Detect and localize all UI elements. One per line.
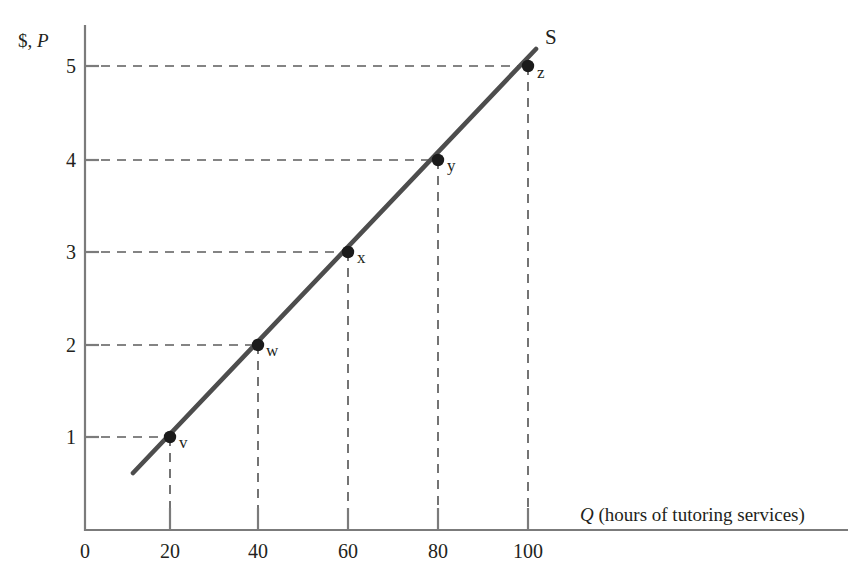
chart-canvas: $, P 5 4 3 2 1 0 20 40 60 80 100 v w x y… (0, 0, 850, 581)
y-tick-label-5: 5 (50, 56, 76, 76)
y-tick-label-4: 4 (50, 150, 76, 170)
x-tick-label-40: 40 (233, 541, 283, 561)
x-tick-label-0: 0 (60, 541, 110, 561)
data-point-y (432, 154, 444, 166)
data-point-v (164, 431, 176, 443)
vertical-guide-lines (170, 66, 528, 527)
y-axis-title-italic: P (37, 30, 49, 51)
x-tick-label-80: 80 (413, 541, 463, 561)
data-point-z (522, 60, 534, 72)
data-point-w (252, 339, 264, 351)
y-axis-tick-marks (85, 66, 99, 437)
horizontal-guide-lines (85, 66, 528, 437)
y-tick-label-3: 3 (50, 242, 76, 262)
supply-curve-plot (0, 0, 850, 581)
point-label-v: v (179, 434, 188, 451)
point-label-x: x (357, 249, 366, 266)
x-axis-tick-marks (170, 508, 528, 530)
y-tick-label-1: 1 (50, 427, 76, 447)
x-tick-label-20: 20 (145, 541, 195, 561)
y-tick-label-2: 2 (50, 335, 76, 355)
x-axis-title: Q (hours of tutoring services) (580, 505, 805, 524)
x-axis-title-italic: Q (580, 504, 594, 525)
y-axis-title-plain: $, (18, 30, 37, 51)
point-label-w: w (266, 342, 278, 359)
supply-curve-line (133, 49, 536, 473)
supply-curve-label: S (545, 27, 557, 48)
x-tick-label-100: 100 (503, 541, 553, 561)
y-axis-title: $, P (18, 31, 49, 50)
point-label-y: y (447, 157, 456, 174)
point-label-z: z (537, 64, 545, 81)
data-point-x (342, 246, 354, 258)
x-tick-label-60: 60 (323, 541, 373, 561)
x-axis-title-rest: (hours of tutoring services) (594, 504, 805, 525)
